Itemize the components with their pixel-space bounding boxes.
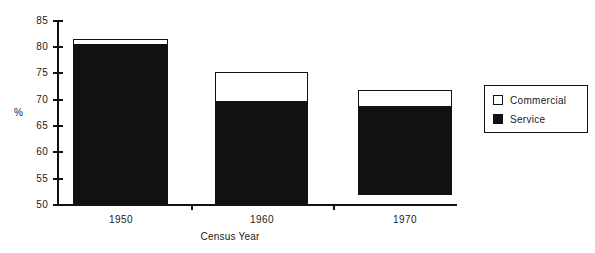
- x-axis-tick: [191, 206, 193, 210]
- bar-segment-commercial: [358, 90, 452, 107]
- bar-group-1960: [215, 72, 308, 206]
- y-axis-tick: [53, 178, 63, 180]
- y-axis-tick: [53, 46, 63, 48]
- y-axis-tick: [53, 20, 63, 22]
- bar-group-1950: [73, 39, 168, 206]
- y-axis-tick-label: 60: [24, 147, 48, 157]
- x-axis-line: [57, 204, 457, 206]
- x-axis-tick: [333, 206, 335, 210]
- legend: Commercial Service: [484, 85, 588, 133]
- legend-label: Commercial: [510, 95, 566, 106]
- bar-group-1970: [358, 90, 452, 206]
- y-axis-tick-label: 70: [24, 95, 48, 105]
- y-axis-tick-label: 55: [24, 174, 48, 184]
- legend-item-commercial: Commercial: [493, 94, 566, 106]
- bar-segment-service: [73, 44, 168, 205]
- bar-segment-service: [215, 101, 308, 205]
- x-axis-tick-label: 1970: [359, 214, 451, 225]
- x-axis-tick-label: 1960: [216, 214, 308, 225]
- x-axis-tick-label: 1950: [75, 214, 167, 225]
- y-axis-title: %: [14, 108, 23, 118]
- legend-swatch-service-icon: [493, 114, 503, 124]
- y-axis-tick: [53, 125, 63, 127]
- bar-segment-commercial: [215, 72, 308, 102]
- bar-segment-service: [358, 106, 452, 195]
- legend-label: Service: [510, 114, 545, 125]
- y-axis-tick-label: 75: [24, 68, 48, 78]
- y-axis-tick-label: 85: [24, 16, 48, 26]
- y-axis-tick: [53, 99, 63, 101]
- y-axis-tick-label: 80: [24, 42, 48, 52]
- y-axis-tick: [53, 151, 63, 153]
- y-axis-tick: [53, 72, 63, 74]
- legend-item-service: Service: [493, 113, 545, 125]
- stacked-bar-chart: 85 80 75 70 65 60 55 50 % 1950 1960 1970: [0, 0, 595, 253]
- legend-swatch-commercial-icon: [493, 95, 503, 105]
- x-axis-title: Census Year: [0, 231, 460, 242]
- y-axis-tick-label: 50: [24, 200, 48, 210]
- y-axis-tick-label: 65: [24, 121, 48, 131]
